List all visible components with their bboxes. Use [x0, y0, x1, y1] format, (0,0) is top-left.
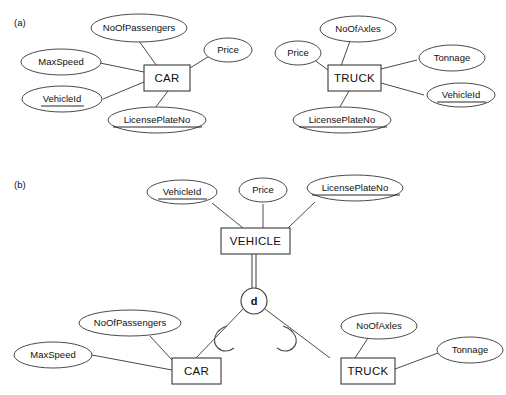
attribute-vehicleid-truck-a: VehicleId — [427, 83, 495, 107]
edge-d-to-car — [196, 309, 243, 358]
er-diagram-figure: (a) NoOfPassengers Price MaxSpeed Vehicl… — [0, 0, 506, 395]
attribute-maxspeed-car-b: MaxSpeed — [14, 342, 92, 368]
part-a-label: (a) — [14, 17, 26, 28]
edge-d-to-truck — [265, 309, 330, 358]
entity-car-a: CAR — [144, 65, 190, 91]
attribute-maxspeed-car-a: MaxSpeed — [21, 49, 101, 75]
attribute-noofpassengers-car-a: NoOfPassengers — [91, 14, 187, 42]
attribute-label: VehicleId — [43, 93, 82, 104]
attribute-noofpassengers-car-b: NoOfPassengers — [79, 310, 181, 336]
attribute-price-truck-a: Price — [275, 41, 321, 65]
entity-label: TRUCK — [347, 365, 388, 377]
attribute-label: Tonnage — [452, 344, 488, 355]
attribute-price-car-a: Price — [204, 38, 252, 62]
attribute-licenseplateno-vehicle-b: LicensePlateNo — [307, 175, 403, 201]
entity-label: VEHICLE — [230, 235, 281, 247]
edge-car-vehicleid — [103, 82, 144, 99]
edge-truck-noofaxles — [341, 41, 350, 66]
attribute-label: LicensePlateNo — [124, 114, 191, 125]
attribute-label: NoOfAxles — [356, 320, 402, 331]
attribute-label: VehicleId — [163, 186, 202, 197]
attribute-price-vehicle-b: Price — [239, 178, 287, 202]
er-diagram-canvas: (a) NoOfPassengers Price MaxSpeed Vehicl… — [0, 0, 506, 395]
attribute-label: LicensePlateNo — [322, 182, 389, 193]
entity-label: CAR — [184, 365, 209, 377]
disjoint-symbol-label: d — [251, 295, 258, 307]
attribute-label: Tonnage — [434, 52, 470, 63]
attribute-label: NoOfPassengers — [94, 317, 167, 328]
attribute-label: LicensePlateNo — [309, 114, 376, 125]
attribute-label: Price — [217, 44, 239, 55]
edge-truck-b-tonnage — [395, 353, 438, 369]
edge-vehicle-licenseplate — [288, 202, 315, 228]
edge-truck-vehicleid — [381, 83, 424, 95]
edge-truck-tonnage — [381, 60, 417, 69]
entity-label: TRUCK — [334, 72, 375, 84]
entity-car-b: CAR — [172, 358, 221, 384]
edge-car-b-noofpassengers — [150, 336, 172, 360]
entity-label: CAR — [154, 72, 179, 84]
attribute-vehicleid-car-a: VehicleId — [22, 86, 102, 112]
entity-vehicle-b: VEHICLE — [221, 228, 290, 254]
attribute-label: NoOfAxles — [335, 23, 381, 34]
entity-truck-b: TRUCK — [341, 358, 395, 384]
specialization-circle-disjoint: d — [241, 288, 267, 314]
attribute-label: Price — [287, 47, 309, 58]
attribute-label: MaxSpeed — [30, 349, 75, 360]
edge-vehicle-vehicleid — [212, 203, 243, 228]
attribute-noofaxles-truck-b: NoOfAxles — [341, 313, 417, 339]
attribute-tonnage-truck-b: Tonnage — [437, 337, 503, 363]
attribute-label: VehicleId — [442, 89, 481, 100]
attribute-licenseplateno-truck-a: LicensePlateNo — [293, 107, 391, 133]
entity-truck-a: TRUCK — [328, 65, 381, 91]
edge-car-maxspeed — [100, 63, 144, 72]
subset-arc-car-icon — [215, 326, 234, 351]
part-b-label: (b) — [14, 179, 26, 190]
attribute-noofaxles-truck-a: NoOfAxles — [320, 16, 396, 42]
attribute-label: Price — [252, 184, 274, 195]
attribute-label: NoOfPassengers — [103, 22, 176, 33]
attribute-label: MaxSpeed — [38, 56, 83, 67]
edge-car-b-maxspeed — [92, 355, 172, 370]
attribute-licenseplateno-car-a: LicensePlateNo — [108, 107, 206, 133]
attribute-vehicleid-vehicle-b: VehicleId — [147, 180, 217, 204]
attribute-tonnage-truck-a: Tonnage — [419, 45, 485, 71]
edge-truck-b-noofaxles — [355, 338, 368, 358]
